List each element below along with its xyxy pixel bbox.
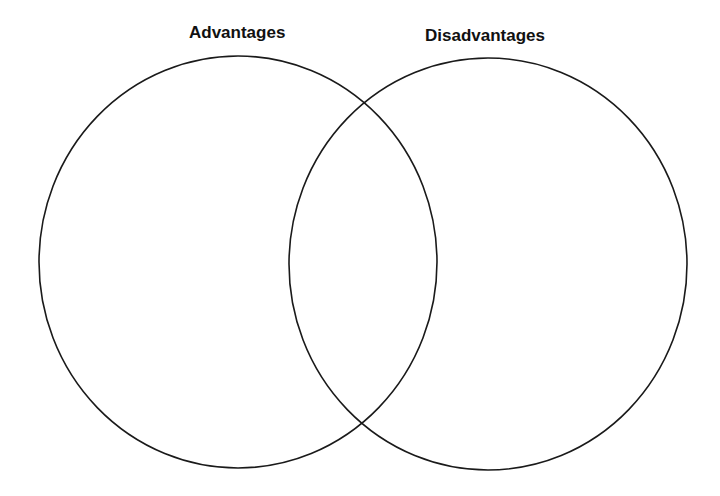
circle-advantages (39, 56, 437, 468)
venn-diagram (0, 0, 720, 496)
circle-disadvantages (289, 58, 687, 470)
